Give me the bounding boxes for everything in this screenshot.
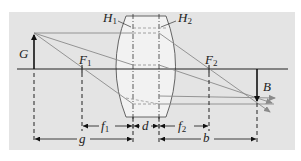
label-b: B (263, 80, 271, 93)
label-f2: F2 (205, 53, 217, 68)
label-dim-f1: f1 (101, 119, 109, 134)
label-h2: H2 (178, 11, 192, 26)
label-g: G (19, 47, 28, 60)
label-dim-b: b (203, 131, 210, 144)
label-dim-d: d (142, 119, 149, 132)
label-f1: F1 (79, 53, 91, 68)
label-dim-g: g (79, 132, 86, 145)
label-dim-f2: f2 (178, 119, 186, 134)
label-h1: H1 (103, 11, 117, 26)
thick-lens-diagram (0, 0, 301, 161)
